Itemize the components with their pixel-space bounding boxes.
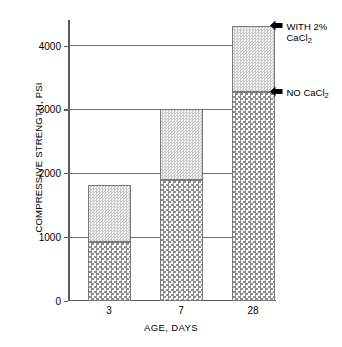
annotation-no-cacl2: NO CaCl2 bbox=[270, 87, 329, 100]
y-axis-title: COMPRESSIVE STRENGTH, PSI bbox=[33, 28, 44, 288]
x-tick-label: 7 bbox=[178, 305, 184, 316]
bar-segment-no-cacl2 bbox=[160, 180, 203, 301]
left-arrow-icon bbox=[270, 86, 283, 97]
plot-area: 01000200030004000 bbox=[68, 20, 276, 301]
bar-3-days bbox=[88, 20, 131, 301]
annotation-label: NO CaCl2 bbox=[287, 87, 329, 100]
bar-segment-with-cacl2 bbox=[88, 185, 131, 242]
annotation-label: WITH 2%CaCl2 bbox=[287, 21, 328, 45]
y-tick-mark bbox=[64, 109, 68, 110]
y-tick-label: 4000 bbox=[39, 40, 61, 51]
x-tick-label: 28 bbox=[247, 305, 258, 316]
left-arrow-icon bbox=[270, 20, 283, 31]
bar-28-days bbox=[232, 20, 275, 301]
x-axis-title: AGE, DAYS bbox=[0, 322, 342, 333]
bar-segment-with-cacl2 bbox=[160, 109, 203, 180]
y-tick-label: 0 bbox=[55, 296, 61, 307]
annotation-with-cacl2: WITH 2%CaCl2 bbox=[270, 21, 328, 45]
bar-7-days bbox=[160, 20, 203, 301]
bar-segment-no-cacl2 bbox=[88, 242, 131, 301]
y-tick-label: 3000 bbox=[39, 104, 61, 115]
x-tick-label: 3 bbox=[106, 305, 112, 316]
y-tick-label: 2000 bbox=[39, 168, 61, 179]
compressive-strength-bar-chart: COMPRESSIVE STRENGTH, PSI 01000200030004… bbox=[0, 0, 342, 347]
y-tick-mark bbox=[64, 46, 68, 47]
y-tick-mark bbox=[64, 173, 68, 174]
y-tick-label: 1000 bbox=[39, 232, 61, 243]
bar-segment-with-cacl2 bbox=[232, 26, 275, 92]
bar-segment-no-cacl2 bbox=[232, 92, 275, 301]
y-tick-mark bbox=[64, 237, 68, 238]
y-tick-mark bbox=[64, 301, 68, 302]
